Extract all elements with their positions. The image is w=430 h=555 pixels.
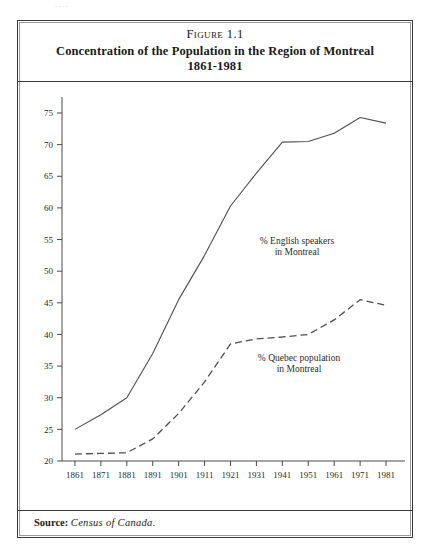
x-tick-label: 1901	[170, 470, 188, 480]
y-tick-label: 35	[44, 361, 54, 371]
x-tick-label: 1891	[144, 470, 162, 480]
y-tick-label: 25	[44, 425, 54, 435]
y-tick-label: 65	[44, 171, 54, 181]
annotation-english-line2: in Montreal	[275, 247, 320, 257]
y-tick-label: 30	[44, 393, 54, 403]
figure-page: .... Figure 1.1 Concentration of the Pop…	[0, 0, 430, 555]
figure-title-line1: Concentration of the Population in the R…	[56, 44, 374, 58]
x-tick-label: 1971	[351, 470, 369, 480]
x-tick-label: 1961	[325, 470, 343, 480]
annotation-quebec-line1: % Quebec population	[258, 353, 341, 363]
x-axis-ticks: 1861187118811891190119111921193119411951…	[66, 461, 395, 480]
y-tick-label: 40	[44, 330, 54, 340]
x-tick-label: 1951	[299, 470, 317, 480]
x-tick-label: 1931	[247, 470, 265, 480]
annotation-english-line1: % English speakers	[260, 236, 335, 246]
figure-label-number: 1.1	[227, 27, 244, 41]
source-value: Census of Canada.	[71, 517, 156, 528]
y-tick-label: 55	[44, 235, 54, 245]
x-tick-label: 1871	[92, 470, 110, 480]
y-tick-label: 20	[44, 456, 54, 466]
figure-title: Concentration of the Population in the R…	[18, 44, 412, 74]
y-tick-label: 60	[44, 203, 54, 213]
figure-title-block: Figure 1.1 Concentration of the Populati…	[18, 21, 412, 82]
figure-number-label: Figure 1.1	[18, 27, 412, 42]
figure-label-prefix: Figure	[186, 27, 223, 41]
page-bleed-through: ....	[55, 0, 385, 14]
x-tick-label: 1921	[222, 470, 240, 480]
figure-source: Source: Census of Canada.	[18, 510, 412, 537]
y-tick-label: 50	[44, 266, 54, 276]
annotation-quebec-line2: in Montreal	[277, 364, 322, 374]
y-axis-ticks: 202530354045505560657075	[44, 108, 62, 466]
x-tick-label: 1911	[196, 470, 214, 480]
chart-plot-area: 202530354045505560657075 186118711881189…	[18, 82, 412, 510]
x-tick-label: 1881	[118, 470, 136, 480]
y-tick-label: 45	[44, 298, 54, 308]
x-tick-label: 1941	[273, 470, 291, 480]
y-tick-label: 70	[44, 140, 54, 150]
line-chart: 202530354045505560657075 186118711881189…	[18, 82, 412, 510]
series-english-speakers-line	[75, 117, 386, 429]
x-tick-label: 1981	[377, 470, 395, 480]
source-label: Source:	[34, 517, 68, 528]
figure-title-line2: 1861-1981	[18, 59, 412, 74]
y-tick-label: 75	[44, 108, 54, 118]
x-tick-label: 1861	[66, 470, 84, 480]
series-quebec-population-line	[75, 300, 386, 454]
